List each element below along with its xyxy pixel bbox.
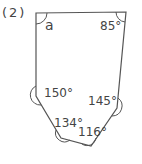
angle-85-label: 85° [100,20,121,32]
angle-150-label: 150° [44,87,73,99]
angle-a-label: a [45,18,54,32]
angle-145-label: 145° [88,95,117,107]
angle-116-label: 116° [78,126,107,138]
